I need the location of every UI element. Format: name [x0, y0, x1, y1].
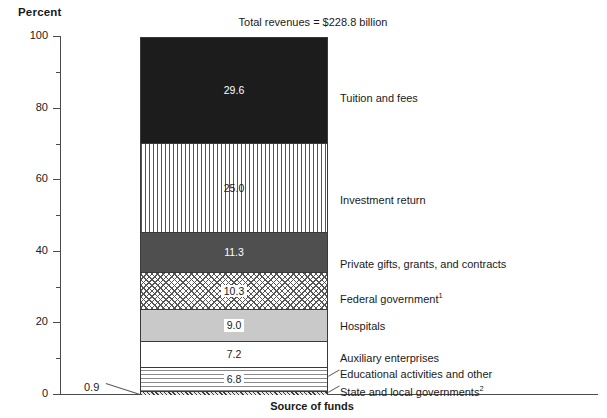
- y-axis-title: Percent: [18, 6, 62, 18]
- bar-segment-value: 10.3: [221, 285, 247, 298]
- x-axis-title: Source of funds: [212, 400, 412, 412]
- bar-segment-value: 6.8: [224, 373, 245, 386]
- category-label-hospitals: Hospitals: [340, 320, 385, 332]
- y-tick-label-80: 80: [4, 101, 48, 113]
- y-tick-minor-70: [56, 144, 61, 145]
- y-tick-label-40: 40: [4, 244, 48, 256]
- y-tick-60: [53, 179, 61, 180]
- y-tick-minor-30: [56, 287, 61, 288]
- y-tick-0: [53, 394, 61, 395]
- bar-segment-educational-activities-and-other[interactable]: 6.8: [141, 368, 327, 392]
- bar-segment-hospitals[interactable]: 9.0: [141, 310, 327, 342]
- category-label-private-gifts-grants-and-contracts: Private gifts, grants, and contracts: [340, 258, 506, 270]
- category-label-state-and-local-governments: State and local governments2: [340, 384, 484, 398]
- bar-segment-value: 7.2: [224, 348, 245, 361]
- leader-line-state-and-local-governments: [328, 386, 340, 393]
- category-label-federal-government: Federal government1: [340, 291, 443, 305]
- stacked-bar-chart: Percent Total revenues = $228.8 billion …: [0, 0, 607, 418]
- category-label-educational-activities-and-other: Educational activities and other: [340, 368, 492, 380]
- bar-segment-investment-return[interactable]: 25.0: [141, 144, 327, 233]
- stacked-bar[interactable]: 29.6 25.0 11.3 10.3 9.0 7.2 6.8: [140, 37, 328, 394]
- bar-segment-value: 11.3: [221, 246, 247, 259]
- category-label-text: Federal government: [340, 293, 438, 305]
- y-tick-minor-10: [56, 358, 61, 359]
- category-label-text: State and local governments: [340, 386, 479, 398]
- y-tick-label-0: 0: [4, 387, 48, 399]
- footnote-marker-2: 2: [479, 384, 483, 393]
- leader-line-educational-activities: [328, 370, 340, 377]
- bar-segment-auxiliary-enterprises[interactable]: 7.2: [141, 342, 327, 368]
- category-label-auxiliary-enterprises: Auxiliary enterprises: [340, 352, 439, 364]
- chart-title: Total revenues = $228.8 billion: [168, 16, 458, 28]
- y-tick-minor-90: [56, 72, 61, 73]
- y-tick-label-20: 20: [4, 315, 48, 327]
- y-tick-40: [53, 251, 61, 252]
- y-tick-label-60: 60: [4, 172, 48, 184]
- category-label-tuition-and-fees: Tuition and fees: [340, 92, 418, 104]
- category-label-investment-return: Investment return: [340, 194, 426, 206]
- y-tick-100: [53, 36, 61, 37]
- bar-segment-value: 25.0: [221, 182, 247, 195]
- bar-segment-value: 9.0: [224, 319, 245, 332]
- bar-segment-federal-government[interactable]: 10.3: [141, 273, 327, 310]
- bar-segment-tuition-and-fees[interactable]: 29.6: [141, 38, 327, 144]
- bar-segment-private-gifts-grants-and-contracts[interactable]: 11.3: [141, 233, 327, 273]
- callout-value-0-9: 0.9: [84, 381, 99, 393]
- y-tick-minor-50: [56, 215, 61, 216]
- y-tick-80: [53, 108, 61, 109]
- y-tick-20: [53, 322, 61, 323]
- bar-segment-value: 29.6: [221, 84, 247, 97]
- footnote-marker-1: 1: [438, 291, 442, 300]
- y-tick-label-100: 100: [4, 29, 48, 41]
- bar-segment-state-and-local-governments[interactable]: [141, 392, 327, 395]
